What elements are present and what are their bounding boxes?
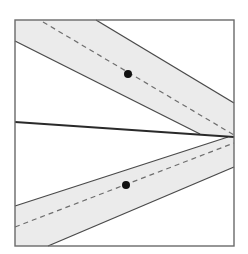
diagram-canvas	[0, 0, 248, 254]
lower-band-center-dot	[122, 181, 130, 189]
upper-band-center-dot	[124, 70, 132, 78]
